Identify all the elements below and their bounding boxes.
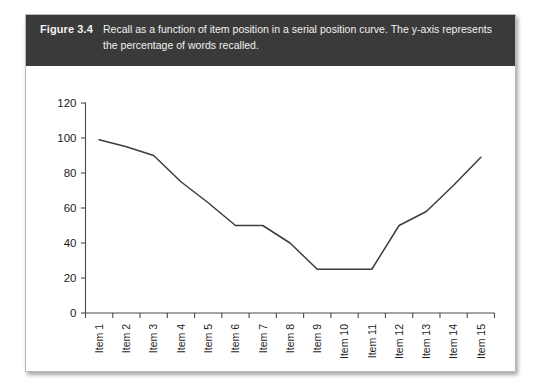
y-axis-tick-label: 20 bbox=[64, 272, 77, 284]
x-axis-tick-label: Item 1 bbox=[93, 324, 105, 353]
x-axis-tick-label: Item 12 bbox=[393, 324, 405, 359]
x-axis-tick-label: Item 3 bbox=[147, 324, 159, 353]
figure-caption-bar: Figure 3.4 Recall as a function of item … bbox=[26, 15, 515, 66]
y-axis-tick-label: 80 bbox=[64, 167, 77, 179]
caption-inner: Figure 3.4 Recall as a function of item … bbox=[40, 22, 501, 53]
y-axis-tick-label: 120 bbox=[57, 97, 76, 109]
serial-position-chart: 020406080100120 Item 1Item 2Item 3Item 4… bbox=[26, 66, 517, 373]
x-axis-tick-label: Item 8 bbox=[284, 324, 296, 353]
y-axis-tick-label: 40 bbox=[64, 237, 77, 249]
data-series-recall bbox=[99, 140, 481, 270]
recall-curve bbox=[99, 140, 481, 270]
y-axis-tick-label: 0 bbox=[70, 307, 76, 319]
x-axis-tick-label: Item 5 bbox=[202, 324, 214, 353]
x-axis-tick-label: Item 6 bbox=[229, 324, 241, 353]
x-axis: Item 1Item 2Item 3Item 4Item 5Item 6Item… bbox=[86, 313, 495, 359]
x-axis-tick-label: Item 11 bbox=[366, 324, 378, 358]
figure-card: Figure 3.4 Recall as a function of item … bbox=[25, 14, 516, 372]
x-axis-tick-label: Item 15 bbox=[475, 324, 487, 359]
x-axis-tick-label: Item 2 bbox=[120, 324, 132, 353]
x-axis-tick-label: Item 14 bbox=[447, 324, 459, 359]
figure-number-label: Figure 3.4 bbox=[40, 22, 93, 38]
x-axis-tick-label: Item 9 bbox=[311, 324, 323, 353]
y-axis: 020406080100120 bbox=[57, 97, 85, 319]
y-axis-tick-label: 100 bbox=[57, 132, 76, 144]
figure-caption-text: Recall as a function of item position in… bbox=[103, 22, 493, 53]
chart-svg: 020406080100120 Item 1Item 2Item 3Item 4… bbox=[26, 66, 517, 373]
y-axis-tick-label: 60 bbox=[64, 202, 77, 214]
x-axis-tick-label: Item 13 bbox=[420, 324, 432, 359]
x-axis-tick-label: Item 4 bbox=[175, 324, 187, 353]
x-axis-tick-label: Item 7 bbox=[257, 324, 269, 353]
x-axis-tick-label: Item 10 bbox=[338, 324, 350, 359]
